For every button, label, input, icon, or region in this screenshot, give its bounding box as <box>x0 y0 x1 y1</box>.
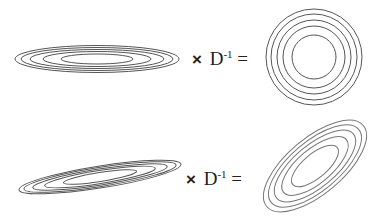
top-output-circles <box>266 9 362 105</box>
top-operator: × D-1 = <box>192 49 248 68</box>
inverse-exponent: -1 <box>217 168 226 180</box>
matrix-symbol: D <box>210 48 224 69</box>
times-symbol: × <box>186 170 196 189</box>
inverse-exponent: -1 <box>223 48 232 60</box>
times-symbol: × <box>192 50 202 69</box>
matrix-symbol: D <box>204 168 218 189</box>
bottom-operator: × D-1 = <box>186 169 242 188</box>
equals-symbol: = <box>237 48 248 69</box>
equals-symbol: = <box>231 168 242 189</box>
bottom-output-ellipses <box>249 104 382 217</box>
bottom-input-ellipses <box>17 153 182 200</box>
top-input-ellipses <box>15 46 179 73</box>
